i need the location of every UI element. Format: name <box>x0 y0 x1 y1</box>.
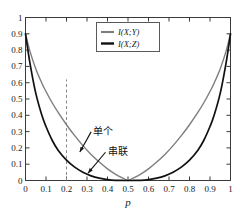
curve-ixz <box>26 34 231 181</box>
y-tick-label: 0.6 <box>11 78 23 88</box>
chart-figure: 00.10.20.30.40.50.60.70.80.91 00.10.20.3… <box>0 0 241 213</box>
x-tick-label: 0.7 <box>163 184 175 194</box>
data-curves <box>26 34 231 181</box>
y-axis-tick-labels: 00.10.20.30.40.50.60.70.80.91 <box>11 13 23 186</box>
y-tick-label: 0.4 <box>11 110 23 120</box>
y-tick-label: 0.8 <box>11 45 23 55</box>
y-tick-label: 0.2 <box>11 143 22 153</box>
x-tick-label: 1 <box>228 184 233 194</box>
annotation-arrowhead-0 <box>80 147 84 152</box>
annotation-label-1: 串联 <box>108 146 128 157</box>
y-tick-label: 1 <box>18 13 23 23</box>
x-tick-label: 0.1 <box>40 184 51 194</box>
y-tick-label: 0.1 <box>11 159 22 169</box>
annotation-label-0: 单个 <box>93 126 113 137</box>
legend-label-ixy: I(X;Y) <box>117 27 139 37</box>
y-tick-label: 0.5 <box>11 94 23 104</box>
y-tick-label: 0 <box>18 176 23 186</box>
curve-ixy <box>26 34 231 181</box>
x-tick-label: 0.4 <box>102 184 114 194</box>
y-tick-label: 0.3 <box>11 127 23 137</box>
x-axis-label: p <box>124 196 131 208</box>
legend-label-ixz: I(X;Z) <box>117 39 139 49</box>
chart-svg: 00.10.20.30.40.50.60.70.80.91 00.10.20.3… <box>0 0 241 213</box>
x-axis-tick-labels: 00.10.20.30.40.50.60.70.80.91 <box>23 184 233 194</box>
x-tick-label: 0.9 <box>204 184 216 194</box>
x-tick-label: 0.6 <box>143 184 155 194</box>
x-tick-label: 0.8 <box>184 184 196 194</box>
x-tick-label: 0 <box>23 184 28 194</box>
x-tick-label: 0.3 <box>81 184 93 194</box>
x-tick-label: 0.2 <box>61 184 72 194</box>
y-tick-label: 0.7 <box>11 61 23 71</box>
y-tick-label: 0.9 <box>11 29 23 39</box>
chart-legend: I(X;Y) I(X;Z) <box>97 23 160 52</box>
x-tick-label: 0.5 <box>122 184 134 194</box>
